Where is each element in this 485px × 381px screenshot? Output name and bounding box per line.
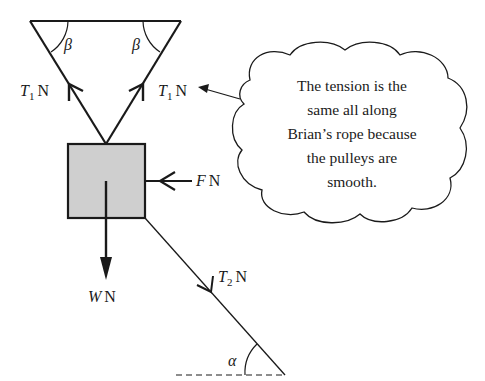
- t1-right-label: T1N: [158, 82, 187, 102]
- annotation-line-5: smooth.: [327, 173, 377, 190]
- callout-pointer-arrow: [198, 84, 240, 99]
- annotation-line-4: the pulleys are: [307, 149, 398, 166]
- callout-arrowhead-icon: [198, 84, 209, 93]
- force-diagram: β β T1N T1N WN FN T2N α The tension is t…: [0, 0, 485, 381]
- annotation-line-3: Brian’s rope because: [287, 125, 416, 142]
- t1-left-label: T1N: [20, 82, 49, 102]
- t2-label: T2N: [218, 268, 247, 288]
- alpha-label: α: [228, 352, 237, 369]
- beta-label-left: β: [63, 36, 72, 54]
- weight-arrowhead-icon: [100, 257, 112, 280]
- push-force-label: FN: [195, 172, 221, 189]
- t2-rope: [145, 218, 285, 375]
- alpha-angle-arc: [245, 344, 257, 375]
- annotation-line-1: The tension is the: [297, 77, 407, 94]
- weight-label: WN: [88, 288, 116, 305]
- push-force-arrow: [145, 172, 192, 190]
- annotation-line-2: same all along: [307, 101, 397, 118]
- beta-label-right: β: [131, 36, 140, 54]
